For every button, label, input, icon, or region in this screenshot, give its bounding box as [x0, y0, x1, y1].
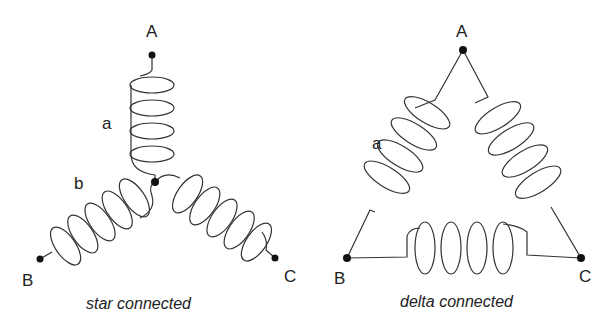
delta-terminal-c-dot	[577, 254, 585, 262]
delta-diagram: A B C a delta connected	[334, 22, 591, 310]
star-terminal-c-dot	[272, 255, 279, 262]
winding-connections-diagram: A B C a b star connected	[0, 0, 616, 336]
delta-coil-ac	[463, 50, 581, 258]
delta-label-c: C	[579, 267, 591, 286]
delta-terminal-b-dot	[343, 254, 351, 262]
star-coil-b	[40, 174, 155, 270]
star-terminal-a-dot	[149, 52, 156, 59]
star-coil-label-a: a	[102, 114, 112, 133]
star-terminal-b-dot	[37, 256, 44, 263]
delta-label-a: A	[456, 22, 468, 41]
delta-coil-bc	[347, 222, 581, 274]
delta-caption: delta connected	[400, 293, 514, 310]
star-label-a: A	[146, 22, 158, 41]
star-label-c: C	[284, 267, 296, 286]
star-diagram: A B C a b star connected	[22, 22, 296, 312]
delta-coil-label-a: a	[372, 134, 382, 153]
star-caption: star connected	[86, 295, 192, 312]
star-neutral-dot	[151, 178, 159, 186]
star-coil-a	[130, 55, 174, 182]
star-coil-c	[155, 170, 277, 266]
delta-label-b: B	[334, 269, 345, 288]
star-label-b: B	[22, 271, 33, 290]
delta-terminal-a-dot	[459, 46, 467, 54]
star-coil-label-b: b	[74, 174, 83, 193]
